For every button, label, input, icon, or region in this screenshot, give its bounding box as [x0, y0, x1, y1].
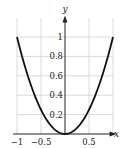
y-tick-label: 0.8	[49, 51, 63, 61]
x-tick-label: −0.5	[31, 137, 52, 147]
x-axis-label: x	[114, 129, 119, 139]
y-tick-label: 1	[58, 32, 63, 42]
y-axis-arrow-icon	[63, 16, 68, 23]
x-tick-label: −1	[11, 137, 24, 147]
chart: xy−1−0.50.50.20.40.60.81	[0, 0, 122, 148]
y-axis-label: y	[62, 4, 69, 14]
y-tick-label: 0.2	[49, 110, 63, 120]
y-tick-label: 0.4	[49, 90, 63, 100]
x-tick-label: 0.5	[82, 137, 96, 147]
y-tick-label: 0.6	[49, 71, 63, 81]
